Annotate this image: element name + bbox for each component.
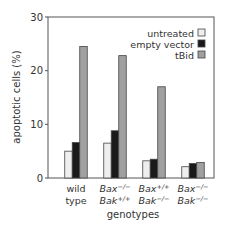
- bar-untreated: [182, 167, 190, 178]
- y-tick-label: 0: [37, 173, 43, 184]
- bar-untreated: [104, 143, 112, 178]
- legend-label: untreated: [147, 28, 194, 39]
- x-tick-label: Bax−/−: [99, 183, 130, 194]
- bar-tBid: [80, 47, 88, 178]
- legend-label: empty vector: [130, 39, 194, 50]
- x-tick-label: Bak+/+: [100, 195, 131, 206]
- x-axis-labels: wildtypeBax−/−Bak+/+Bax+/+Bak−/−Bax−/−Ba…: [65, 183, 208, 206]
- y-tick-label: 10: [30, 119, 43, 130]
- x-tick-label: Bak−/−: [178, 195, 209, 206]
- x-tick-label: type: [65, 195, 86, 206]
- bar-untreated: [143, 161, 151, 178]
- x-tick-label: Bax+/+: [138, 183, 169, 194]
- x-axis-title: genotypes: [107, 209, 160, 220]
- bar-chart: 0102030 wildtypeBax−/−Bak+/+Bax+/+Bak−/−…: [0, 0, 225, 229]
- y-axis-title: apoptotic cells (%): [11, 50, 22, 143]
- legend-label: tBid: [175, 50, 194, 61]
- y-axis: 0102030: [30, 12, 48, 184]
- bar-empty-vector: [150, 159, 158, 178]
- x-tick-label: Bak−/−: [139, 195, 170, 206]
- legend-swatch: [198, 40, 205, 47]
- bar-untreated: [65, 151, 73, 178]
- legend: untreatedempty vectortBid: [130, 28, 205, 61]
- bar-empty-vector: [72, 143, 80, 178]
- y-tick-label: 20: [30, 65, 43, 76]
- x-tick-label: Bax−/−: [177, 183, 208, 194]
- legend-swatch: [198, 51, 205, 58]
- bar-tBid: [119, 56, 127, 178]
- x-tick-label: wild: [66, 183, 85, 194]
- bar-empty-vector: [111, 131, 119, 178]
- bars: [65, 47, 205, 178]
- bar-tBid: [197, 162, 205, 178]
- y-tick-label: 30: [30, 12, 43, 23]
- bar-tBid: [158, 87, 166, 178]
- legend-swatch: [198, 29, 205, 36]
- bar-empty-vector: [189, 164, 197, 178]
